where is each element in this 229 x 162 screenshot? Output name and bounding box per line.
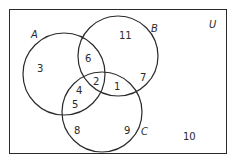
- region-a-and-b: 6: [85, 53, 91, 64]
- region-b-right: 7: [140, 72, 146, 83]
- region-a-only: 3: [37, 63, 43, 74]
- region-a-b-c: 2: [93, 76, 99, 87]
- region-a-and-c-top: 4: [76, 85, 82, 96]
- set-label-c: C: [141, 126, 148, 137]
- region-outside: 10: [183, 131, 196, 142]
- region-b-and-c: 1: [114, 81, 120, 92]
- set-label-a: A: [30, 29, 38, 40]
- region-b-only: 11: [119, 30, 132, 41]
- venn-diagram: U A B C 3 11 8 9 6 4 5 2 1 7 10: [0, 0, 229, 162]
- region-a-and-c-bottom: 5: [72, 99, 78, 110]
- universe-label: U: [209, 19, 217, 30]
- region-c-only-left: 8: [74, 125, 80, 136]
- circle-c: [62, 72, 142, 152]
- set-label-b: B: [151, 23, 158, 34]
- circle-a: [23, 33, 105, 115]
- region-c-only-right: 9: [124, 125, 130, 136]
